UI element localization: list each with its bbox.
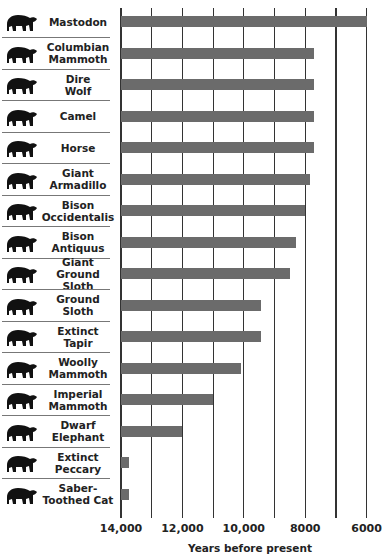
- bar: [121, 331, 261, 342]
- bar: [121, 363, 241, 374]
- category-row: Dwarf Elephant: [0, 416, 120, 447]
- category-row: Bison Occidentalis: [0, 195, 120, 226]
- category-label: Ground Sloth: [40, 290, 116, 321]
- category-row: Columbian Mammoth: [0, 38, 120, 69]
- mastodon-icon: [4, 10, 40, 34]
- mammoth-icon: [4, 357, 40, 381]
- x-tick-label: 14,000: [91, 522, 151, 535]
- bar: [121, 48, 314, 59]
- gridline: [366, 8, 367, 518]
- bar: [121, 237, 296, 248]
- x-tick-label: 10,000: [214, 522, 274, 535]
- x-tick-label: 8000: [275, 522, 335, 535]
- category-row: Imperial Mammoth: [0, 384, 120, 415]
- category-row: Dire Wolf: [0, 69, 120, 100]
- x-axis-label: Years before present: [120, 542, 380, 554]
- category-label: Horse: [40, 132, 116, 163]
- category-row: Extinct Peccary: [0, 447, 120, 478]
- bar: [121, 394, 213, 405]
- camel-icon: [4, 105, 40, 129]
- mammoth-icon: [4, 42, 40, 66]
- bar: [121, 300, 261, 311]
- bar: [121, 174, 310, 185]
- category-row: Woolly Mammoth: [0, 353, 120, 384]
- category-row: Horse: [0, 132, 120, 163]
- bar: [121, 142, 314, 153]
- bison-icon: [4, 231, 40, 255]
- category-row: Camel: [0, 101, 120, 132]
- category-row: Giant Ground Sloth: [0, 258, 120, 289]
- category-label: Dire Wolf: [40, 69, 116, 100]
- wolf-icon: [4, 73, 40, 97]
- category-label: Bison Occidentalis: [40, 195, 116, 226]
- x-tick-label: 6000: [337, 522, 386, 535]
- category-label: Woolly Mammoth: [40, 353, 116, 384]
- category-row: Mastodon: [0, 6, 120, 37]
- peccary-icon: [4, 451, 40, 475]
- bar: [121, 111, 314, 122]
- armadillo-icon: [4, 168, 40, 192]
- category-label: Imperial Mammoth: [40, 384, 116, 415]
- bar: [121, 79, 314, 90]
- sloth-icon: [4, 294, 40, 318]
- gridline: [335, 8, 336, 518]
- category-row: Extinct Tapir: [0, 321, 120, 352]
- category-label: Extinct Peccary: [40, 447, 116, 478]
- sabertooth-icon: [4, 483, 40, 507]
- bar: [121, 16, 367, 27]
- giant-sloth-icon: [4, 262, 40, 286]
- category-label: Bison Antiquus: [40, 227, 116, 258]
- bison-icon: [4, 199, 40, 223]
- category-row: Giant Armadillo: [0, 164, 120, 195]
- x-tick-label: 12,000: [152, 522, 212, 535]
- bar: [121, 205, 305, 216]
- category-label: Dwarf Elephant: [40, 416, 116, 447]
- tapir-icon: [4, 325, 40, 349]
- category-row: Saber- Toothed Cat: [0, 479, 120, 510]
- category-label: Mastodon: [40, 6, 116, 37]
- category-label: Camel: [40, 101, 116, 132]
- bar: [121, 268, 290, 279]
- bar: [121, 426, 182, 437]
- category-row: Bison Antiquus: [0, 227, 120, 258]
- category-label: Extinct Tapir: [40, 321, 116, 352]
- category-label: Giant Armadillo: [40, 164, 116, 195]
- category-label: Saber- Toothed Cat: [40, 479, 116, 510]
- elephant-icon: [4, 420, 40, 444]
- category-label: Giant Ground Sloth: [40, 258, 116, 289]
- bar: [121, 489, 129, 500]
- mammoth-icon: [4, 388, 40, 412]
- bar: [121, 457, 129, 468]
- horse-icon: [4, 136, 40, 160]
- category-row: Ground Sloth: [0, 290, 120, 321]
- category-label: Columbian Mammoth: [40, 38, 116, 69]
